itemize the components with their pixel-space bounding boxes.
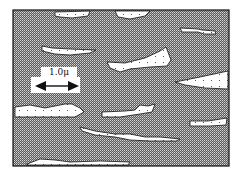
scale-bar-label: 1.0μ — [41, 67, 77, 78]
micrograph-diagram — [0, 0, 243, 176]
